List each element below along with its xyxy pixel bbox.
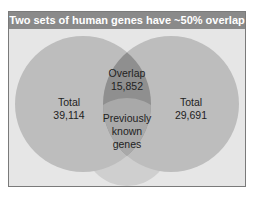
known-genes-label: Previously known genes xyxy=(92,112,162,151)
left-set-value: 39,114 xyxy=(39,109,99,122)
overlap-title: Overlap xyxy=(97,67,157,80)
right-set-label: Total 29,691 xyxy=(161,96,221,122)
left-set-title: Total xyxy=(39,96,99,109)
overlap-value: 15,852 xyxy=(97,80,157,93)
right-set-title: Total xyxy=(161,96,221,109)
known-line-1: Previously xyxy=(92,112,162,125)
known-line-3: genes xyxy=(92,138,162,151)
caption-strip xyxy=(0,196,254,216)
right-set-value: 29,691 xyxy=(161,109,221,122)
venn-diagram-frame: Two sets of human genes have ~50% overla… xyxy=(8,11,246,187)
overlap-label: Overlap 15,852 xyxy=(97,67,157,93)
known-line-2: known xyxy=(92,125,162,138)
left-set-label: Total 39,114 xyxy=(39,96,99,122)
